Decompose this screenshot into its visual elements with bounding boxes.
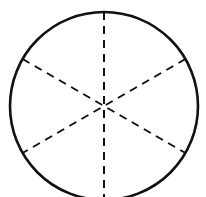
dashed-dividers	[23, 12, 186, 197]
sector-diagram	[0, 0, 206, 197]
